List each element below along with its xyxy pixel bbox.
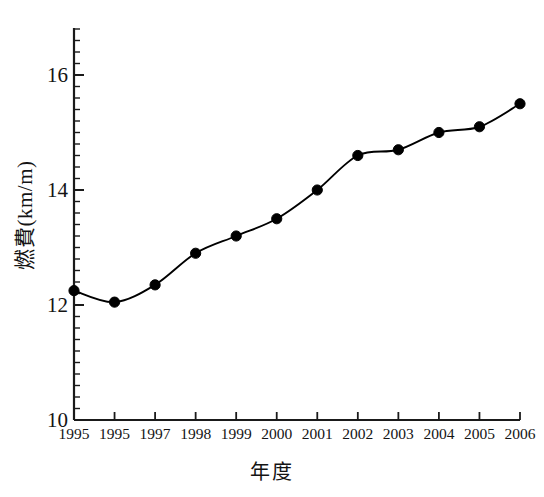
x-axis-tick-label: 2000 <box>261 426 292 442</box>
x-axis-tick-label: 1998 <box>180 426 211 442</box>
data-point-marker <box>191 248 201 258</box>
data-point-marker <box>393 145 403 155</box>
data-point-marker <box>312 185 322 195</box>
y-axis-tick-label: 12 <box>28 295 68 316</box>
data-point-marker <box>69 286 79 296</box>
x-axis-title: 年度 <box>0 456 544 485</box>
data-point-marker <box>353 150 363 160</box>
data-point-marker <box>474 122 484 132</box>
x-axis-tick-label: 1997 <box>140 426 171 442</box>
data-point-marker <box>150 280 160 290</box>
y-axis-ticks <box>74 29 84 420</box>
x-axis-tick-label: 1995 <box>99 426 130 442</box>
y-axis-tick-labels: 10121416 <box>24 0 68 497</box>
x-axis-title-text: 年度 <box>250 461 294 483</box>
y-axis-tick-label: 16 <box>28 65 68 86</box>
x-axis-tick-label: 2001 <box>302 426 333 442</box>
line-chart-figure: 燃費(km/m) 10121416 1995199519971998199920… <box>0 0 544 497</box>
plot-area <box>0 0 544 497</box>
data-point-marker <box>109 297 119 307</box>
data-point-marker <box>231 231 241 241</box>
x-axis-tick-label: 2005 <box>464 426 495 442</box>
x-axis-tick-label: 1999 <box>221 426 252 442</box>
x-axis-tick-label: 2006 <box>505 426 536 442</box>
data-point-marker <box>434 127 444 137</box>
x-axis-tick-label: 1995 <box>59 426 90 442</box>
x-axis-tick-label: 2003 <box>383 426 414 442</box>
axis-lines <box>74 28 520 420</box>
data-series-line <box>74 104 520 302</box>
x-axis-tick-label: 2004 <box>423 426 454 442</box>
data-point-marker <box>515 99 525 109</box>
x-axis-ticks <box>74 412 520 420</box>
data-point-marker <box>272 214 282 224</box>
y-axis-tick-label: 14 <box>28 180 68 201</box>
x-axis-tick-label: 2002 <box>342 426 373 442</box>
